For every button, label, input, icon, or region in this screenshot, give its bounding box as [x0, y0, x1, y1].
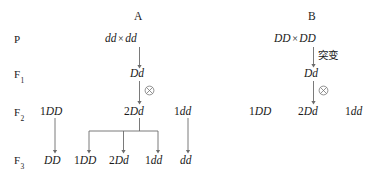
panel-A-F2-item-2: 2Dd: [124, 106, 144, 118]
generation-label-P: P: [14, 34, 20, 48]
panel-B-P-cross: DD×DD: [274, 33, 316, 45]
selfing-icon: [318, 85, 329, 96]
cross-operator: ×: [117, 33, 126, 44]
panel-A-F2-item-1: 1DD: [40, 106, 62, 118]
panel-A-F3-item-1: DD: [44, 155, 61, 167]
panel-B-P-left: DD: [274, 32, 291, 44]
panel-A-F3-item-3: 2Dd: [109, 155, 129, 167]
panel-B-P-right: DD: [299, 32, 316, 44]
panel-A-P-cross: dd×dd: [105, 33, 137, 45]
panel-B-F2-item-1: 1DD: [249, 106, 271, 118]
panel-title-A: A: [134, 11, 142, 23]
generation-label-F1: F1: [14, 69, 24, 83]
cross-operator: ×: [291, 33, 300, 44]
panel-A-F3-item-2: 1DD: [74, 155, 96, 167]
panel-B-F2-item-3: 1dd: [345, 106, 362, 118]
panel-A-F1-genotype: Dd: [130, 68, 144, 80]
mutation-label: 突变: [318, 50, 338, 61]
panel-A-F2-item-3: 1dd: [174, 106, 191, 118]
panel-A-P-right: dd: [125, 32, 137, 44]
genetics-diagram: P F1 F2 F3 A dd×dd Dd 1DD 2Dd 1dd DD 1DD: [0, 0, 385, 185]
generation-label-F3: F3: [14, 155, 24, 169]
panel-A-F3-item-4: 1dd: [145, 155, 162, 167]
panel-A-P-left: dd: [105, 32, 117, 44]
selfing-icon: [144, 85, 155, 96]
panel-title-B: B: [308, 11, 316, 23]
panel-A-F3-item-5: dd: [180, 155, 192, 167]
panel-B-F2-item-2: 2Dd: [298, 106, 318, 118]
panel-B-F1-genotype: Dd: [304, 68, 318, 80]
generation-label-F2: F2: [14, 107, 24, 121]
